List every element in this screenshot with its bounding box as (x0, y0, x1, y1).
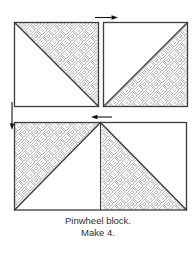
caption-line2: Make 4. (0, 227, 196, 239)
press-arrow-left (10, 102, 14, 130)
caption-line1: Pinwheel block. (0, 215, 196, 227)
pinwheel-block-diagram: Pinwheel block. Make 4. (0, 0, 196, 256)
arrow-down-icon (10, 124, 14, 131)
arrow-right-icon (112, 15, 119, 19)
press-arrow-center (91, 115, 112, 119)
hst-unit-top-left (15, 23, 99, 107)
hst-unit-top-right (104, 23, 188, 107)
sewn-pair-bottom (15, 123, 187, 211)
press-arrow-top (95, 15, 118, 19)
arrow-left-icon (91, 115, 98, 119)
diagram-canvas (0, 0, 196, 214)
caption: Pinwheel block. Make 4. (0, 215, 196, 238)
